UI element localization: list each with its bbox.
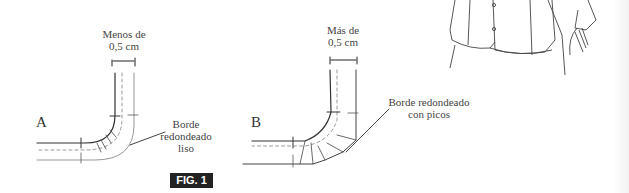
panel-a-letter: A <box>36 114 47 131</box>
panel-a-callout-line2: redondeado <box>158 130 214 142</box>
panel-a-measure-line2: 0,5 cm <box>96 40 152 52</box>
panel-a-callout: Borde redondeado liso <box>158 118 214 154</box>
panel-b-measure-line1: Más de <box>318 24 368 36</box>
figure-label-badge: FIG. 1 <box>170 173 213 188</box>
panel-a-callout-line3: liso <box>158 142 214 154</box>
panel-b-callout: Borde redondeado con picos <box>385 96 473 120</box>
jacket-illustration <box>450 0 596 75</box>
sewing-diagrams <box>0 0 629 193</box>
panel-a-callout-line1: Borde <box>158 118 214 130</box>
diagram-a-smooth-rounded-edge <box>37 58 165 163</box>
panel-b-callout-line1: Borde redondeado <box>385 96 473 108</box>
diagram-b-notched-rounded-edge <box>243 57 389 167</box>
panel-a-measure-line1: Menos de <box>96 28 152 40</box>
panel-b-callout-line2: con picos <box>385 108 473 120</box>
panel-a-measure-label: Menos de 0,5 cm <box>96 28 152 52</box>
panel-b-letter: B <box>251 114 261 131</box>
panel-b-measure-label: Más de 0,5 cm <box>318 24 368 48</box>
panel-b-measure-line2: 0,5 cm <box>318 36 368 48</box>
